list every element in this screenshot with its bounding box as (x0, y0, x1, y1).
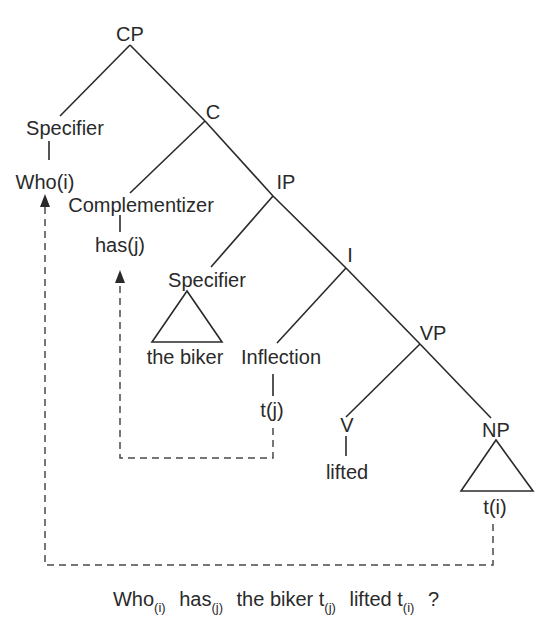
node-has: has(j) (95, 235, 145, 255)
node-ip-specifier: Specifier (168, 270, 246, 290)
node-lifted: lifted (326, 462, 368, 482)
edge-vp-np (420, 344, 491, 418)
node-tj: t(j) (260, 400, 283, 420)
node-ti: t(i) (483, 497, 506, 517)
arrowhead-has-icon (115, 270, 125, 283)
edge-cp-specifier (60, 45, 130, 116)
arrowhead-who-icon (40, 194, 50, 207)
edge-c-ip (205, 121, 273, 196)
node-the-biker: the biker (147, 347, 224, 367)
sentence-word: the biker t(j) (237, 588, 336, 610)
node-complementizer: Complementizer (68, 195, 214, 215)
sentence-word: has(j) (179, 588, 223, 610)
node-inflection: Inflection (241, 347, 321, 367)
node-vp: VP (420, 323, 447, 343)
edge-ip-i (273, 196, 346, 268)
node-cp-specifier: Specifier (26, 118, 104, 138)
sentence-question-mark: ? (428, 588, 439, 610)
triangle-np (461, 440, 533, 491)
edge-cp-c (130, 45, 205, 121)
edge-i-vp (346, 268, 420, 344)
edge-ip-specifier (211, 196, 273, 267)
example-sentence: Who(i) has(j) the biker t(j) lifted t(i)… (113, 588, 439, 615)
edge-vp-v (346, 344, 420, 417)
node-np: NP (482, 420, 510, 440)
movement-tj-to-has (120, 282, 273, 458)
node-c: C (206, 102, 220, 122)
node-v: V (340, 415, 353, 435)
edge-i-inflection (277, 268, 346, 343)
sentence-word: lifted t(i) (349, 588, 414, 610)
node-i: I (347, 245, 353, 265)
movement-ti-to-who (45, 206, 493, 565)
sentence-word: Who(i) (113, 588, 166, 610)
tree-lines (0, 0, 552, 622)
edge-c-complementizer (130, 121, 205, 193)
node-who: Who(i) (16, 172, 75, 192)
node-ip: IP (277, 172, 296, 192)
node-cp: CP (116, 24, 144, 44)
triangle-the-biker (152, 291, 222, 342)
